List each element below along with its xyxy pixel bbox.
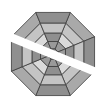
web-cell xyxy=(40,23,65,33)
web-cell xyxy=(36,85,70,96)
spiderweb-octagon-slashed-icon xyxy=(0,0,106,109)
web-cell xyxy=(36,12,70,23)
octagon-web-graphic xyxy=(0,0,106,109)
web-cell xyxy=(44,33,61,41)
